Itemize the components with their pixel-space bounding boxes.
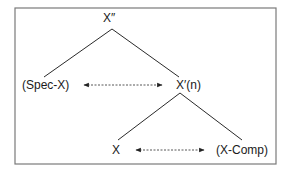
edge-xbar-comp <box>180 93 242 140</box>
node-x-comp: (X-Comp) <box>216 143 268 157</box>
edge-root-xbar <box>112 29 179 77</box>
x-bar-tree-diagram: X″ (Spec-X) X′(n) X (X-Comp) <box>0 0 291 175</box>
node-x-bar-n: X′(n) <box>176 78 201 92</box>
edge-xbar-head <box>118 93 180 140</box>
edge-root-spec <box>44 29 112 77</box>
node-root-x-double-bar: X″ <box>103 11 115 25</box>
node-spec-x: (Spec-X) <box>22 78 69 92</box>
node-head-x: X <box>112 143 120 157</box>
